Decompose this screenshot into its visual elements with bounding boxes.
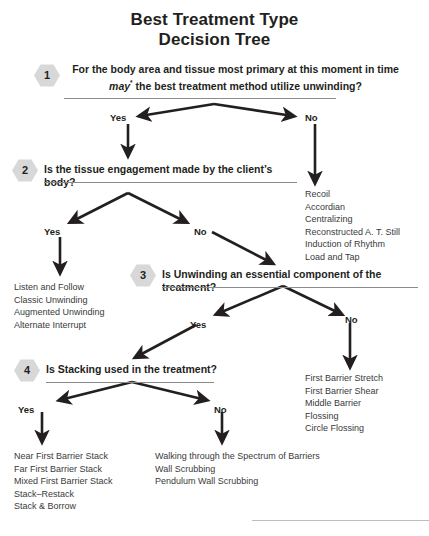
- list-item: Induction of Rhythm: [305, 238, 400, 251]
- node-4-yes-label: Yes: [18, 404, 34, 415]
- list-item: Reconstructed A. T. Still: [305, 226, 400, 239]
- node-2-yes-label: Yes: [44, 226, 60, 237]
- node-1-question-emphasis: may: [109, 80, 130, 92]
- node-3-question: Is Unwinding an essential component of t…: [162, 268, 424, 294]
- node-1-no-outcome-list: Recoil Accordian Centralizing Reconstruc…: [305, 188, 400, 264]
- node-3-no-outcome-list: First Barrier Stretch First Barrier Shea…: [305, 372, 383, 435]
- node-2-rule: [44, 182, 297, 183]
- list-item: Stack & Borrow: [14, 500, 113, 513]
- list-item: Circle Flossing: [305, 422, 383, 435]
- node-3-no-label: No: [345, 314, 358, 325]
- node-1-question: For the body area and tissue most primar…: [63, 63, 408, 93]
- list-item: Load and Tap: [305, 251, 400, 264]
- list-item: Stack–Restack: [14, 488, 113, 501]
- node-1-yes-label: Yes: [110, 112, 126, 123]
- node-2-no-label: No: [194, 226, 207, 237]
- list-item: First Barrier Shear: [305, 385, 383, 398]
- node-4-rule: [46, 382, 214, 383]
- list-item: Middle Barrier: [305, 397, 383, 410]
- list-item: First Barrier Stretch: [305, 372, 383, 385]
- list-item: Augmented Unwinding: [14, 306, 105, 319]
- list-item: Classic Unwinding: [14, 294, 105, 307]
- list-item: Flossing: [305, 410, 383, 423]
- node-4-no-outcome-list: Walking through the Spectrum of Barriers…: [155, 450, 320, 488]
- node-2-yes-outcome-list: Listen and Follow Classic Unwinding Augm…: [14, 281, 105, 331]
- node-3-rule: [162, 287, 418, 288]
- list-item: Wall Scrubbing: [155, 463, 320, 476]
- list-item: Recoil: [305, 188, 400, 201]
- list-item: Walking through the Spectrum of Barriers: [155, 450, 320, 463]
- list-item: Listen and Follow: [14, 281, 105, 294]
- node-1-rule: [64, 98, 336, 99]
- node-4-no-label: No: [214, 404, 227, 415]
- list-item: Accordian: [305, 201, 400, 214]
- list-item: Mixed First Barrier Stack: [14, 475, 113, 488]
- node-3-yes-label: Yes: [190, 319, 206, 330]
- list-item: Alternate Interrupt: [14, 319, 105, 332]
- list-item: Pendulum Wall Scrubbing: [155, 475, 320, 488]
- node-1-no-label: No: [305, 112, 318, 123]
- list-item: Near First Barrier Stack: [14, 450, 113, 463]
- node-2-question: Is the tissue engagement made by the cli…: [44, 163, 304, 189]
- node-1-question-line-1: For the body area and tissue most primar…: [72, 63, 399, 75]
- footer-divider: [252, 520, 429, 521]
- decision-tree-page: Best Treatment Type Decision Tree: [0, 0, 429, 536]
- node-4-yes-outcome-list: Near First Barrier Stack Far First Barri…: [14, 450, 113, 513]
- list-item: Far First Barrier Stack: [14, 463, 113, 476]
- list-item: Centralizing: [305, 213, 400, 226]
- node-1-question-line-2: the best treatment method utilize unwind…: [133, 80, 362, 92]
- node-4-question: Is Stacking used in the treatment?: [46, 363, 266, 376]
